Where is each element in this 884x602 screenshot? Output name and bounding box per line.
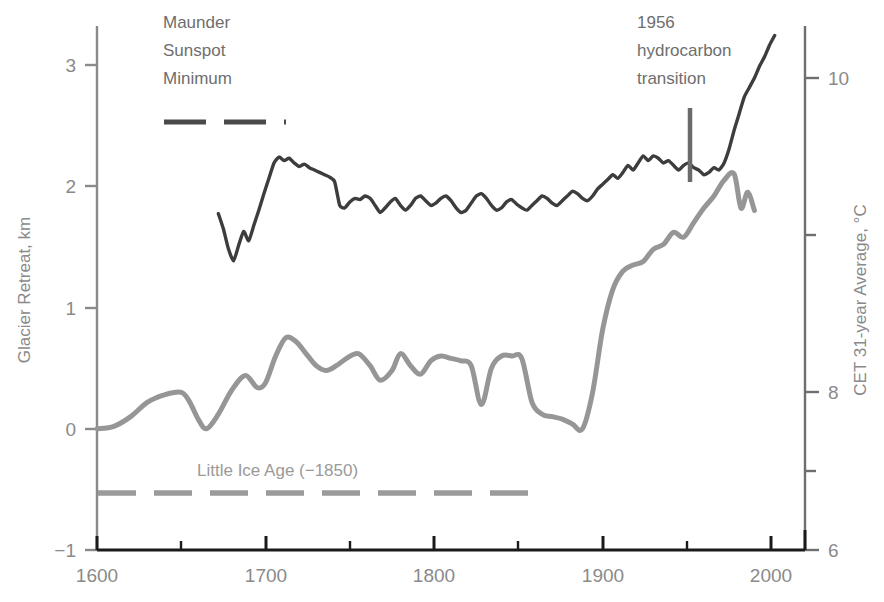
left-tick-label-2: 2 xyxy=(65,176,76,197)
hydrocarbon-label-line2: hydrocarbon xyxy=(637,41,732,60)
left-tick-label-minus1: −1 xyxy=(54,540,76,561)
x-tick-label-1800: 1800 xyxy=(413,565,455,586)
right-tick-label-6: 6 xyxy=(828,540,839,561)
hydrocarbon-label-line3: transition xyxy=(637,69,706,88)
chart-container: 3 2 1 0 −1 Glacier Retreat, km 10 8 6 CE… xyxy=(0,0,884,602)
x-tick-label-1600: 1600 xyxy=(76,565,118,586)
maunder-label-line1: Maunder xyxy=(163,13,230,32)
right-axis-title: CET 31-year Average, °C xyxy=(851,204,870,395)
left-tick-label-1: 1 xyxy=(65,298,76,319)
hydrocarbon-label-line1: 1956 xyxy=(637,13,675,32)
chart-background xyxy=(0,0,884,602)
little-ice-age-label: Little Ice Age (−1850) xyxy=(197,461,358,480)
chart-svg: 3 2 1 0 −1 Glacier Retreat, km 10 8 6 CE… xyxy=(0,0,884,602)
right-tick-label-10: 10 xyxy=(828,68,849,89)
x-tick-label-1700: 1700 xyxy=(245,565,287,586)
maunder-label-line2: Sunspot xyxy=(163,41,226,60)
left-axis-title: Glacier Retreat, km xyxy=(15,217,34,363)
left-tick-label-3: 3 xyxy=(65,55,76,76)
maunder-label-line3: Minimum xyxy=(163,69,232,88)
left-tick-label-0: 0 xyxy=(65,419,76,440)
x-tick-label-1900: 1900 xyxy=(582,565,624,586)
right-tick-label-8: 8 xyxy=(828,382,839,403)
x-tick-label-2000: 2000 xyxy=(750,565,792,586)
